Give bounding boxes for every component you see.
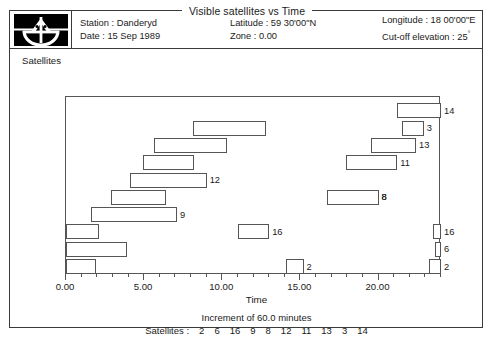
x-axis-tick-label: 10.00 xyxy=(209,281,233,292)
satellite-bar xyxy=(238,224,269,239)
increment-note: Increment of 60.0 minutes xyxy=(10,311,493,324)
legend-satellite-number: 3 xyxy=(342,325,347,336)
satellite-bar-label: 12 xyxy=(210,175,220,185)
legend: Satellites :261698121113314 xyxy=(10,324,493,337)
legend-satellite-number: 11 xyxy=(301,325,311,336)
x-axis-tick-label: 5.00 xyxy=(134,281,153,292)
longitude-label: Longitude : 18 00'00"E xyxy=(382,14,475,27)
y-axis-label: Satellites xyxy=(22,55,61,66)
header-fields: Station : Danderyd Date : 15 Sep 1989 La… xyxy=(72,11,482,48)
header-field-longitude: Longitude : 18 00'00"E Cut-off elevation… xyxy=(382,14,475,44)
legend-satellite-number: 12 xyxy=(281,325,292,336)
satellite-bar xyxy=(327,190,379,205)
x-axis-minor-tick xyxy=(96,274,97,277)
x-axis-minor-tick xyxy=(237,274,238,277)
x-axis-major-tick xyxy=(143,274,144,280)
x-axis-tick-label: 0.00 xyxy=(56,281,75,292)
header-field-latitude: Latitude : 59 30'00"N Zone : 0.00 xyxy=(230,17,382,43)
report-panel: Visible satellites vs Time xyxy=(9,10,483,328)
x-axis-minor-tick xyxy=(284,274,285,277)
legend-satellite-number: 13 xyxy=(321,325,332,336)
x-axis-minor-tick xyxy=(362,274,363,277)
legend-prefix: Satellites : xyxy=(145,325,189,336)
x-axis-minor-tick xyxy=(206,274,207,277)
x-axis-minor-tick xyxy=(393,274,394,277)
satellite-bar xyxy=(111,190,166,205)
x-axis-minor-tick xyxy=(424,274,425,277)
x-axis-minor-tick xyxy=(81,274,82,277)
plot-caption: Increment of 60.0 minutes Satellites :26… xyxy=(10,311,493,337)
legend-satellite-number: 9 xyxy=(250,325,255,336)
satellite-bar xyxy=(66,242,127,257)
latitude-label: Latitude : 59 30'00"N xyxy=(230,17,382,30)
degree-symbol-icon: ° xyxy=(468,30,471,37)
x-axis-ticks xyxy=(65,274,440,280)
plot-surface: 2616981211133141682 xyxy=(66,97,439,273)
satellite-bar xyxy=(66,259,96,274)
satellite-bar-label: 2 xyxy=(307,262,312,272)
satellite-bar xyxy=(397,103,441,118)
cutoff-elevation-label: Cut-off elevation : 25° xyxy=(382,27,475,44)
satellite-bar-label: 3 xyxy=(427,123,432,133)
x-axis-tick-label: 15.00 xyxy=(287,281,311,292)
x-axis-minor-tick xyxy=(190,274,191,277)
x-axis-minor-tick xyxy=(268,274,269,277)
x-axis-minor-tick xyxy=(315,274,316,277)
satellite-bar-label: 13 xyxy=(419,140,429,150)
satellite-bar xyxy=(143,155,195,170)
satellite-bar-label: 6 xyxy=(444,244,449,254)
x-axis-minor-tick xyxy=(159,274,160,277)
satellite-bar xyxy=(130,173,207,188)
x-axis-major-tick xyxy=(65,274,66,280)
legend-satellite-number: 16 xyxy=(230,325,241,336)
theodolite-logo-icon xyxy=(14,14,68,46)
satellite-bar-label: 8 xyxy=(382,192,387,202)
satellite-bar-label: 11 xyxy=(400,158,410,168)
plot-frame: 2616981211133141682 xyxy=(65,96,440,274)
zone-label: Zone : 0.00 xyxy=(230,30,382,43)
cutoff-elevation-value: Cut-off elevation : 25 xyxy=(382,33,468,43)
satellite-bar-label: 14 xyxy=(444,106,454,116)
x-axis-major-tick xyxy=(299,274,300,280)
satellite-bar xyxy=(346,155,398,170)
legend-satellite-number: 6 xyxy=(214,325,219,336)
legend-satellite-number: 2 xyxy=(199,325,204,336)
satellite-bar xyxy=(371,138,416,153)
satellite-bar-label: 16 xyxy=(272,227,282,237)
satellite-bar-label: 16 xyxy=(444,227,454,237)
satellite-bar xyxy=(91,207,177,222)
satellite-bar xyxy=(154,138,227,153)
satellite-bar xyxy=(435,242,441,257)
x-axis-major-tick xyxy=(221,274,222,280)
logo-cell xyxy=(10,11,72,48)
satellite-bar xyxy=(286,259,303,274)
satellite-bar xyxy=(429,259,442,274)
x-axis-minor-tick xyxy=(346,274,347,277)
date-label: Date : 15 Sep 1989 xyxy=(80,30,230,43)
satellite-bar xyxy=(402,121,424,136)
x-axis-minor-tick xyxy=(128,274,129,277)
satellite-bar xyxy=(433,224,441,239)
satellite-bar-label: 2 xyxy=(444,262,449,272)
x-axis-tick-labels: 0.005.0010.0015.0020.00 xyxy=(10,281,493,293)
legend-satellite-number: 14 xyxy=(357,325,368,336)
x-axis-title: Time xyxy=(10,294,493,305)
header-field-station: Station : Danderyd Date : 15 Sep 1989 xyxy=(80,17,230,43)
satellite-bar xyxy=(66,224,99,239)
satellite-bar-label: 9 xyxy=(180,210,185,220)
x-axis-major-tick xyxy=(378,274,379,280)
x-axis-minor-tick xyxy=(331,274,332,277)
x-axis-minor-tick xyxy=(112,274,113,277)
x-axis-minor-tick xyxy=(253,274,254,277)
satellite-bar xyxy=(193,121,266,136)
header-band: Station : Danderyd Date : 15 Sep 1989 La… xyxy=(10,11,482,49)
x-axis-tick-label: 20.00 xyxy=(365,281,389,292)
x-axis-minor-tick xyxy=(174,274,175,277)
station-label: Station : Danderyd xyxy=(80,17,230,30)
x-axis-minor-tick xyxy=(409,274,410,277)
x-axis-minor-tick xyxy=(440,274,441,277)
legend-satellite-number: 8 xyxy=(266,325,271,336)
